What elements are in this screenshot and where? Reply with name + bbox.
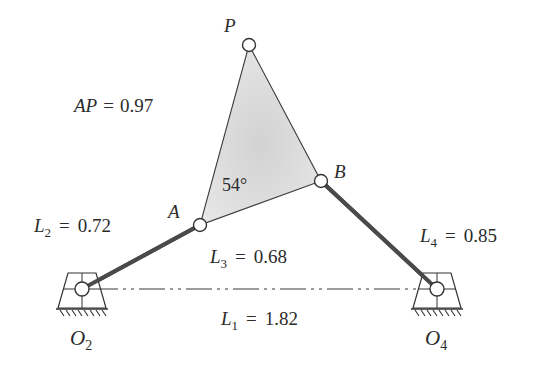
pin-B-icon — [315, 175, 328, 188]
dim-L3: L3=0.68 — [209, 246, 287, 271]
dim-L1: L1=1.82 — [220, 308, 298, 333]
dim-AP: AP=0.97 — [72, 95, 153, 116]
four-bar-linkage-diagram: P B A O2 O4 54° AP=0.97 L2=0.72 L3=0.68 … — [0, 0, 545, 372]
pin-P-icon — [243, 39, 256, 52]
pin-A-icon — [194, 219, 207, 232]
angle-label: 54° — [222, 175, 247, 195]
dim-L2: L2=0.72 — [33, 215, 111, 240]
coupler-triangle — [200, 45, 321, 225]
label-A: A — [166, 201, 180, 222]
dim-L4: L4=0.85 — [419, 225, 497, 250]
label-B: B — [334, 161, 346, 182]
pin-O2-icon — [75, 282, 89, 296]
pin-O4-icon — [430, 282, 444, 296]
label-O2: O2 — [70, 326, 92, 353]
label-P: P — [223, 15, 236, 36]
label-O4: O4 — [425, 326, 447, 353]
